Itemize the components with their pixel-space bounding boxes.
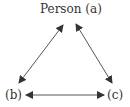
edge-a-c-arrow [76, 24, 112, 83]
edge-a-b-arrow [19, 25, 63, 83]
arrows [0, 0, 130, 107]
